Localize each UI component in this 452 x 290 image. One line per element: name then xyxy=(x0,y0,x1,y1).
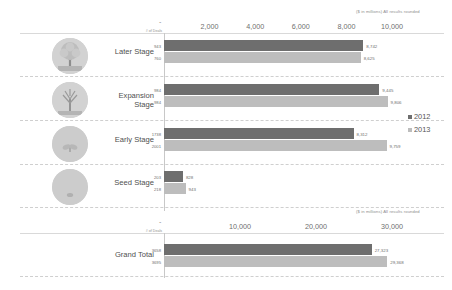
total-deal-count: 3695 xyxy=(140,260,161,265)
deal-count: 943 xyxy=(140,44,161,49)
bottom-axis-tick: 10,000 xyxy=(229,222,251,231)
top-axis-tick: 8,000 xyxy=(337,22,355,31)
deal-count: 984 xyxy=(140,100,161,105)
top-axis-rule xyxy=(20,33,444,34)
deal-count: 760 xyxy=(140,56,161,61)
legend-label: 2012 xyxy=(414,112,430,121)
chart-canvas: 2,0004,0006,0008,00010,000-# of Deals($ … xyxy=(0,0,452,290)
bar-2012 xyxy=(164,84,379,95)
top-axis-tick: 6,000 xyxy=(292,22,310,31)
bar-value-label: 828 xyxy=(186,175,193,180)
legend-item-2013[interactable]: 2013 xyxy=(408,125,430,134)
bar-2013 xyxy=(164,140,387,151)
bar-2013 xyxy=(164,52,361,63)
bar-2013 xyxy=(164,183,186,194)
sprout-icon xyxy=(52,126,88,162)
bottom-axis-tick: 20,000 xyxy=(305,222,327,231)
bar-value-label: 8,742 xyxy=(366,44,377,49)
deal-count: 984 xyxy=(140,88,161,93)
row-separator xyxy=(20,76,444,77)
total-deal-count: 3658 xyxy=(140,248,161,253)
bar-value-label: 8,625 xyxy=(364,56,375,61)
row-separator xyxy=(20,164,444,165)
bar-2013 xyxy=(164,96,388,107)
bottom-axis-tick: 30,000 xyxy=(381,222,403,231)
bottom-axis-rule xyxy=(20,233,444,234)
total-bar-2013 xyxy=(164,256,387,267)
total-bar-2012 xyxy=(164,244,372,255)
bottom-axis-zero-tick: - xyxy=(159,218,161,225)
total-bar-value-label: 29,368 xyxy=(390,260,403,265)
total-row-separator xyxy=(20,276,444,277)
bar-value-label: 8,312 xyxy=(357,132,368,137)
top-axis-zero-tick: - xyxy=(159,18,161,25)
top-axis-tick: 10,000 xyxy=(381,22,403,31)
seed-icon xyxy=(52,169,88,205)
chart-legend: 20122013 xyxy=(408,112,430,138)
chart-annotation-top: ($ in millions) All results rounded xyxy=(356,9,420,14)
bar-2012 xyxy=(164,171,183,182)
legend-label: 2013 xyxy=(414,125,430,134)
bar-2012 xyxy=(164,40,363,51)
bar-2012 xyxy=(164,128,354,139)
bar-value-label: 943 xyxy=(189,187,196,192)
row-separator xyxy=(20,120,444,121)
deal-count: 218 xyxy=(140,187,161,192)
bar-value-label: 9,806 xyxy=(391,100,402,105)
top-axis-tick: 2,000 xyxy=(201,22,219,31)
top-axis-tick: 4,000 xyxy=(246,22,264,31)
row-separator xyxy=(20,207,444,208)
bar-value-label: 9,759 xyxy=(390,144,401,149)
legend-item-2012[interactable]: 2012 xyxy=(408,112,430,121)
deal-count: 2001 xyxy=(140,144,161,149)
deal-count: 203 xyxy=(140,175,161,180)
legend-swatch-icon xyxy=(408,115,412,119)
chart-annotation-bottom: ($ in millions) All results rounded xyxy=(356,209,420,214)
deal-count: 1738 xyxy=(140,132,161,137)
mature-tree-icon xyxy=(52,38,88,74)
growing-tree-icon xyxy=(52,82,88,118)
bar-value-label: 9,445 xyxy=(382,88,393,93)
total-bar-value-label: 27,323 xyxy=(375,248,388,253)
legend-swatch-icon xyxy=(408,128,412,132)
